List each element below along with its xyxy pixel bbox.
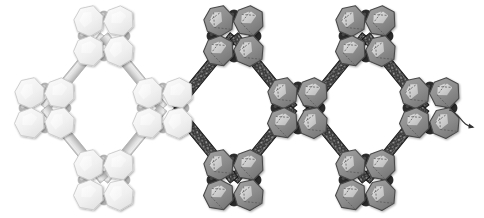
structure-diagram: [0, 0, 484, 218]
figure-canvas: Polyhedral chain framework Three corner-…: [0, 0, 484, 218]
